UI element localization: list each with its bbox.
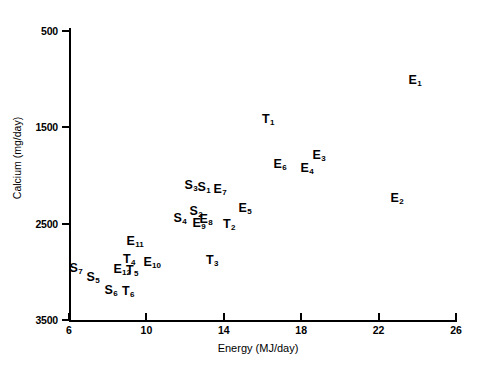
x-tick-label: 22 [364, 324, 394, 336]
scatter-plot-figure: Calcium (mg/day) Energy (MJ/day) 3500250… [0, 0, 478, 369]
data-point-label: T1 [262, 113, 274, 126]
data-point-label: T3 [206, 254, 218, 267]
x-tick-label: 10 [131, 324, 161, 336]
x-tick-mark [378, 313, 380, 321]
data-point-label: E2 [391, 192, 404, 205]
y-tick-mark [62, 223, 70, 225]
data-point-label: E5 [239, 202, 252, 215]
x-tick-label: 26 [441, 324, 471, 336]
data-point-label: E3 [313, 149, 326, 162]
data-point-label: S3 [185, 179, 198, 192]
y-tick-mark [62, 30, 70, 32]
x-axis-line [69, 320, 457, 322]
data-point-label: E4 [301, 162, 314, 175]
y-tick-label: 500 [18, 25, 58, 37]
data-point-label: S6 [105, 284, 118, 297]
data-point-label: T2 [223, 218, 235, 231]
x-tick-label: 6 [54, 324, 84, 336]
y-tick-label: 2500 [18, 218, 58, 230]
x-tick-mark [68, 313, 70, 321]
data-point-label: S5 [87, 271, 100, 284]
data-point-label: T5 [126, 264, 138, 277]
x-tick-mark [223, 313, 225, 321]
y-axis-line [69, 28, 71, 322]
data-point-label: E10 [143, 256, 160, 269]
data-point-label: S2 [190, 205, 203, 218]
x-tick-label: 14 [209, 324, 239, 336]
x-tick-mark [300, 313, 302, 321]
data-point-label: S7 [70, 262, 83, 275]
x-tick-mark [145, 313, 147, 321]
data-point-label: E7 [214, 183, 227, 196]
y-tick-mark [62, 126, 70, 128]
y-tick-label: 1500 [18, 121, 58, 133]
y-axis-title: Calcium (mg/day) [11, 93, 23, 223]
data-point-label: T6 [122, 285, 134, 298]
data-point-label: E6 [274, 158, 287, 171]
data-point-label: S1 [198, 181, 211, 194]
data-point-label: S4 [174, 212, 187, 225]
x-tick-label: 18 [286, 324, 316, 336]
x-axis-title: Energy (MJ/day) [128, 342, 388, 354]
data-point-label: E11 [127, 235, 144, 248]
data-point-label: E1 [409, 74, 422, 87]
y-tick-label: 3500 [18, 314, 58, 326]
x-tick-mark [455, 313, 457, 321]
